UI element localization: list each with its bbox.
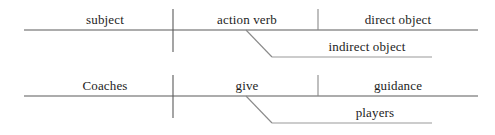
- row2-subject-label: Coaches: [82, 78, 127, 93]
- sentence-diagram: subject action verb direct object indire…: [0, 0, 495, 135]
- row1-subject-label: subject: [86, 12, 124, 27]
- row2-verb-label: give: [236, 78, 259, 93]
- row2-indirect-object-label: players: [356, 105, 395, 120]
- row2-indirect-object-diagonal: [246, 96, 272, 123]
- row1-indirect-object-diagonal: [246, 30, 272, 57]
- row1-indirect-object-label: indirect object: [329, 39, 406, 54]
- row2-direct-object-label: guidance: [374, 78, 422, 93]
- row1-direct-object-label: direct object: [365, 12, 432, 27]
- row1-verb-label: action verb: [217, 12, 277, 27]
